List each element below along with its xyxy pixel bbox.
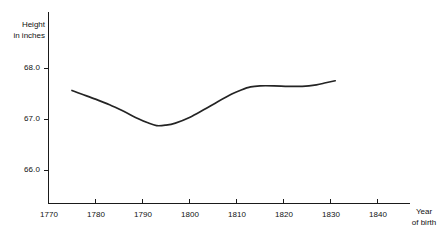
chart-plot-area bbox=[0, 0, 448, 236]
x-tick-label-1830: 1830 bbox=[311, 211, 351, 219]
x-tick-label-1770: 1770 bbox=[29, 211, 69, 219]
y-tick-label-66: 66.0 bbox=[8, 166, 40, 174]
x-tick-label-1780: 1780 bbox=[76, 211, 116, 219]
x-tick-label-1810: 1810 bbox=[217, 211, 257, 219]
x-axis-title: Year of birth bbox=[401, 206, 447, 228]
x-axis-group bbox=[48, 199, 410, 204]
y-axis-title: Height in inches bbox=[0, 19, 45, 41]
y-tick-label-68: 68.0 bbox=[8, 64, 40, 72]
x-tick-label-1800: 1800 bbox=[170, 211, 210, 219]
x-axis-title-line1: Year bbox=[401, 206, 447, 217]
x-tick-label-1790: 1790 bbox=[123, 211, 163, 219]
x-tick-label-1820: 1820 bbox=[264, 211, 304, 219]
y-axis-title-line1: Height bbox=[0, 19, 45, 30]
y-tick-label-67: 67.0 bbox=[8, 115, 40, 123]
chart-figure: Height in inches Year of birth 68.0 67.0… bbox=[0, 0, 448, 236]
height-trend-curve bbox=[72, 81, 335, 126]
x-axis-title-line2: of birth bbox=[401, 217, 447, 228]
y-axis-title-line2: in inches bbox=[0, 30, 45, 41]
x-tick-label-1840: 1840 bbox=[358, 211, 398, 219]
